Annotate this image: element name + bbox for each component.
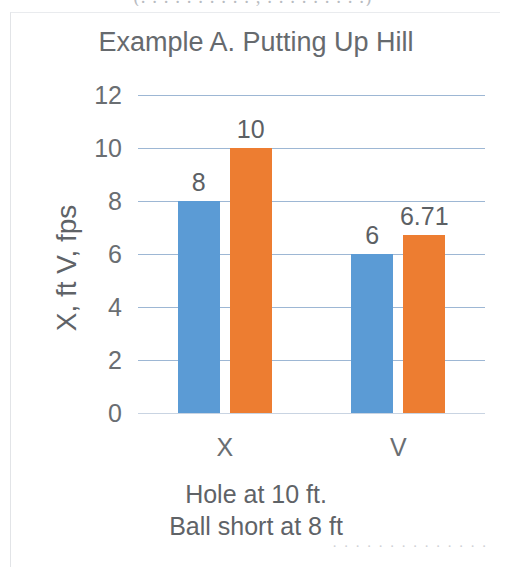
x-axis-category-label: V <box>390 435 407 460</box>
bar-value-label: 10 <box>237 117 265 142</box>
scanned-page-text-above: (. . . . . . . . . . , . . . . . . . . .… <box>0 0 506 6</box>
y-axis-tick-label: 10 <box>94 136 122 161</box>
gridline <box>138 148 485 149</box>
x-axis-caption: Hole at 10 ft. Ball short at 8 ft <box>11 478 501 542</box>
gridline <box>138 95 485 96</box>
bar-value-label: 6.71 <box>400 204 449 229</box>
chart-title: Example A. Putting Up Hill <box>11 27 501 58</box>
x-axis-category-label: X <box>216 435 233 460</box>
gridline <box>138 413 485 414</box>
y-axis-tick-label: 6 <box>108 242 122 267</box>
bar <box>230 148 272 413</box>
bar <box>178 201 220 413</box>
bar-value-label: 6 <box>365 223 379 248</box>
y-axis-tick-label: 0 <box>108 401 122 426</box>
x-axis-caption-line-1: Hole at 10 ft. <box>11 478 501 510</box>
y-axis-tick-label: 2 <box>108 348 122 373</box>
scanned-page-text-below: . . . . . . . . . . . . . . <box>0 534 506 548</box>
y-axis-title-text: X, ft V, fps <box>53 205 81 332</box>
bar <box>351 254 393 413</box>
bar-value-label: 8 <box>192 170 206 195</box>
y-axis-tick-label: 8 <box>108 189 122 214</box>
bar <box>403 235 445 413</box>
y-axis-tick-label: 4 <box>108 295 122 320</box>
y-axis-title: X, ft V, fps <box>37 133 97 403</box>
y-axis-tick-label: 12 <box>94 83 122 108</box>
chart-container: Example A. Putting Up Hill X, ft V, fps … <box>10 12 500 567</box>
plot-area: 121086420810X66.71V <box>138 95 485 413</box>
